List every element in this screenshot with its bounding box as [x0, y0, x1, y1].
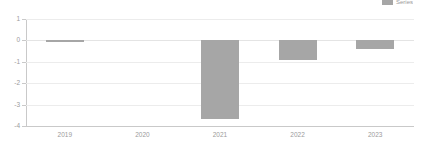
y-tick-mark — [22, 105, 26, 106]
y-tick-label: -3 — [0, 101, 20, 108]
y-tick-mark — [22, 19, 26, 20]
bar[interactable] — [201, 40, 239, 119]
y-tick-label: 0 — [0, 36, 20, 43]
y-tick-label: -2 — [0, 79, 20, 86]
x-tick-label: 2020 — [104, 131, 182, 139]
bar[interactable] — [46, 40, 84, 41]
y-tick-mark — [22, 62, 26, 63]
y-tick-label: -4 — [0, 122, 20, 129]
x-axis-line — [26, 126, 414, 127]
plot-area — [26, 19, 414, 126]
y-tick-mark — [22, 126, 26, 127]
x-tick-label: 2023 — [336, 131, 414, 139]
bar[interactable] — [356, 40, 394, 49]
y-tick-mark — [22, 40, 26, 41]
x-tick-label: 2022 — [259, 131, 337, 139]
y-tick-label: -1 — [0, 58, 20, 65]
legend-label: Series — [396, 0, 413, 6]
y-tick-label: 1 — [0, 15, 20, 22]
bar[interactable] — [279, 40, 317, 60]
bar-chart: Series 10-1-2-3-4 20192020202120222023 — [0, 0, 421, 149]
x-tick-label: 2021 — [181, 131, 259, 139]
legend-swatch-icon — [382, 0, 393, 5]
gridline — [26, 19, 414, 20]
chart-legend: Series — [382, 0, 413, 7]
y-tick-mark — [22, 83, 26, 84]
y-axis-labels: 10-1-2-3-4 — [0, 0, 20, 149]
x-tick-label: 2019 — [26, 131, 104, 139]
